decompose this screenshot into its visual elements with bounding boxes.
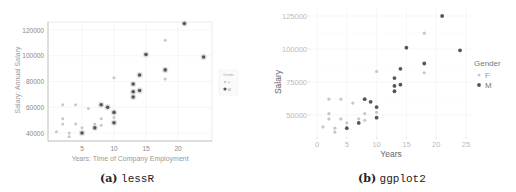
data-point-f	[100, 124, 103, 127]
data-point-m	[138, 89, 142, 93]
data-point-m	[345, 126, 349, 130]
data-point-f	[81, 126, 84, 129]
data-point-m	[131, 95, 135, 99]
data-point-m	[357, 121, 361, 125]
data-point-m	[106, 105, 110, 109]
legend-title: Gender	[223, 73, 235, 77]
chart-panel-ggplot2: 05101520255000075000100000125000YearsSal…	[258, 0, 516, 192]
y-tick-label: 100000	[282, 45, 307, 54]
y-tick-label: 50000	[286, 111, 307, 120]
scatter-plot-lessr: 5101520400006000080000100000120000Years:…	[0, 0, 258, 192]
data-point-f	[327, 98, 330, 101]
y-tick-label: 60000	[26, 104, 44, 111]
x-tick-label: 15	[402, 140, 410, 149]
data-point-m	[131, 82, 135, 86]
data-point-m	[93, 126, 97, 130]
data-point-f	[74, 103, 77, 106]
data-point-m	[422, 62, 426, 66]
x-tick-label: 25	[462, 140, 470, 149]
data-point-m	[399, 83, 403, 87]
legend: GenderFM	[474, 59, 501, 90]
y-tick-label: 120000	[22, 27, 44, 34]
x-axis-label: Years: Time of Company Employment	[71, 155, 188, 163]
legend-m-label: M	[485, 81, 492, 90]
data-point-m	[131, 90, 135, 94]
data-point-m	[405, 46, 409, 50]
x-tick-label: 10	[110, 145, 118, 152]
data-point-m	[393, 89, 397, 93]
data-point-f	[339, 98, 342, 101]
x-tick-label: 10	[372, 140, 380, 149]
x-axis-label: Years	[380, 149, 401, 159]
y-tick-label: 125000	[282, 12, 307, 21]
data-point-m	[80, 131, 84, 135]
data-point-m	[112, 111, 116, 115]
data-point-m	[138, 73, 142, 77]
data-point-m	[202, 55, 206, 59]
legend: GenderFM	[219, 70, 238, 95]
data-point-m	[393, 76, 397, 80]
data-point-f	[357, 117, 360, 120]
data-point-f	[423, 32, 426, 35]
legend-m-label: M	[228, 88, 231, 92]
data-point-m	[393, 84, 397, 88]
x-tick-label: 5	[80, 145, 84, 152]
data-point-m	[375, 116, 379, 120]
data-point-m	[399, 67, 403, 71]
data-point-f	[100, 117, 103, 120]
data-point-f	[164, 39, 167, 42]
y-tick-label: 40000	[26, 130, 44, 137]
data-point-f	[68, 135, 71, 138]
caption-ggplot2: (b) ggplot2	[358, 172, 426, 185]
data-point-f	[333, 127, 336, 130]
y-axis-label: Salary	[273, 69, 283, 94]
data-point-f	[363, 112, 366, 115]
data-point-f	[423, 71, 426, 74]
data-point-f	[327, 112, 330, 115]
data-point-f	[68, 132, 71, 135]
data-point-f	[113, 116, 116, 119]
data-point-f	[375, 111, 378, 114]
data-point-f	[363, 119, 366, 122]
x-tick-label: 20	[432, 140, 440, 149]
data-point-f	[61, 103, 64, 106]
data-point-m	[440, 14, 444, 18]
data-point-f	[74, 122, 77, 125]
data-point-f	[351, 102, 354, 105]
data-point-f	[93, 122, 96, 125]
data-point-f	[333, 131, 336, 134]
data-point-f	[87, 107, 90, 110]
data-point-f	[55, 130, 58, 133]
data-point-f	[375, 70, 378, 73]
data-point-m	[112, 121, 116, 125]
data-point-m	[375, 105, 379, 109]
data-point-m	[369, 100, 373, 104]
legend-title: Gender	[474, 59, 501, 68]
data-point-m	[144, 53, 148, 57]
y-axis-label: Salary: Annual Salary	[14, 46, 22, 113]
data-point-f	[61, 117, 64, 120]
legend-f-marker	[478, 74, 481, 77]
data-point-f	[61, 122, 64, 125]
y-tick-label: 80000	[26, 78, 44, 85]
legend-m-marker	[223, 87, 226, 90]
legend-m-marker	[477, 83, 481, 87]
data-point-f	[339, 117, 342, 120]
data-point-f	[321, 125, 324, 128]
data-point-m	[163, 68, 167, 72]
data-point-f	[164, 77, 167, 80]
data-point-f	[345, 121, 348, 124]
x-tick-label: 15	[142, 145, 150, 152]
y-tick-label: 100000	[22, 52, 44, 59]
x-tick-label: 5	[345, 140, 349, 149]
caption-lessr: (a) lessR	[100, 172, 154, 185]
x-tick-label: 20	[174, 145, 182, 152]
data-point-m	[458, 48, 462, 52]
legend-f-label: F	[228, 81, 230, 85]
data-point-f	[113, 76, 116, 79]
legend-f-marker	[224, 81, 226, 83]
scatter-plot-ggplot2: 05101520255000075000100000125000YearsSal…	[258, 0, 516, 192]
data-point-f	[327, 117, 330, 120]
data-point-m	[183, 22, 187, 26]
data-point-m	[363, 97, 367, 101]
